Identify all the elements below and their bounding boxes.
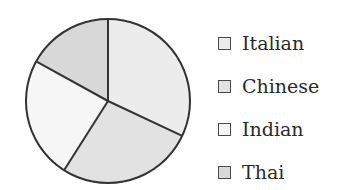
legend-swatch-italian <box>218 37 231 50</box>
legend-item-indian: Indian <box>218 108 319 151</box>
legend-swatch-indian <box>218 123 231 136</box>
legend-label: Thai <box>242 163 284 182</box>
pie-chart <box>0 0 210 190</box>
legend-item-chinese: Chinese <box>218 65 319 108</box>
legend-label: Chinese <box>242 77 319 96</box>
legend-item-thai: Thai <box>218 151 319 190</box>
legend-swatch-thai <box>218 166 231 179</box>
legend: Italian Chinese Indian Thai <box>218 22 319 190</box>
legend-label: Indian <box>242 120 304 139</box>
legend-swatch-chinese <box>218 80 231 93</box>
legend-label: Italian <box>242 34 304 53</box>
legend-item-italian: Italian <box>218 22 319 65</box>
